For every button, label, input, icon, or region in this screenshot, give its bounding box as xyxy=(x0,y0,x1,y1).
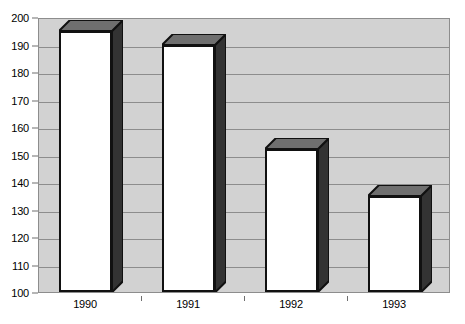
x-axis-tick-label: 1992 xyxy=(279,298,303,310)
y-axis-tick-mark xyxy=(32,128,38,129)
bar-top-face xyxy=(59,20,123,31)
bar-top-face xyxy=(368,185,432,196)
bar-top-face xyxy=(162,34,226,45)
x-axis-tick-mark xyxy=(244,296,245,301)
y-axis-tick-label: 100 xyxy=(11,287,29,299)
x-axis-tick-mark xyxy=(347,296,348,301)
x-axis: 1990199119921993 xyxy=(38,296,450,322)
y-axis-tick-label: 110 xyxy=(12,260,29,272)
bar-side-face xyxy=(421,185,432,292)
bar xyxy=(162,34,226,293)
bar-chart: 200190180170160150140130120110100 199019… xyxy=(0,0,465,324)
bar-front-face xyxy=(162,45,215,293)
bar-front-face xyxy=(368,196,421,292)
bar-front-face xyxy=(59,31,112,292)
y-axis-tick-mark xyxy=(32,18,38,19)
bar xyxy=(265,138,329,292)
plot-area xyxy=(38,18,450,293)
y-axis-tick-mark xyxy=(32,100,38,101)
y-axis-tick-label: 120 xyxy=(11,232,29,244)
y-axis-tick-label: 180 xyxy=(11,67,29,79)
y-axis-tick-mark xyxy=(32,293,38,294)
y-axis-tick-label: 200 xyxy=(11,12,29,24)
bar xyxy=(59,20,123,292)
y-axis-tick-mark xyxy=(32,183,38,184)
y-axis-tick-mark xyxy=(32,238,38,239)
y-axis: 200190180170160150140130120110100 xyxy=(0,0,38,324)
x-axis-tick-mark xyxy=(141,296,142,301)
y-axis-tick-mark xyxy=(32,73,38,74)
y-axis-tick-label: 140 xyxy=(11,177,29,189)
y-axis-tick-mark xyxy=(32,45,38,46)
bar-side-face xyxy=(215,34,226,293)
y-axis-tick-mark xyxy=(32,265,38,266)
bar xyxy=(368,185,432,292)
bar-side-face xyxy=(318,138,329,292)
x-axis-tick-label: 1991 xyxy=(176,298,200,310)
bar-side-face xyxy=(112,20,123,292)
bar-front-face xyxy=(265,149,318,292)
bar-top-face xyxy=(265,138,329,149)
y-axis-tick-mark xyxy=(32,155,38,156)
y-axis-tick-mark xyxy=(32,210,38,211)
x-axis-tick-label: 1990 xyxy=(73,298,97,310)
y-axis-tick-label: 130 xyxy=(11,205,29,217)
y-axis-tick-label: 170 xyxy=(11,95,29,107)
x-axis-tick-label: 1993 xyxy=(382,298,406,310)
y-axis-tick-label: 160 xyxy=(11,122,29,134)
y-axis-tick-label: 150 xyxy=(11,150,29,162)
y-axis-tick-label: 190 xyxy=(11,40,29,52)
